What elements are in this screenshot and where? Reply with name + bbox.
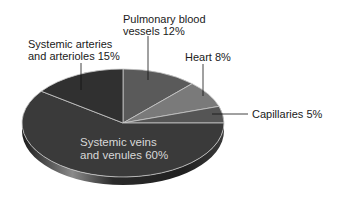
label-pulmonary: Pulmonary blood vessels 12% bbox=[123, 13, 206, 37]
label-veins: Systemic veins and venules 60% bbox=[80, 136, 168, 162]
label-arteries: Systemic arteries and arterioles 15% bbox=[28, 38, 120, 62]
label-heart: Heart 8% bbox=[185, 51, 231, 63]
label-capillaries: Capillaries 5% bbox=[252, 108, 322, 120]
